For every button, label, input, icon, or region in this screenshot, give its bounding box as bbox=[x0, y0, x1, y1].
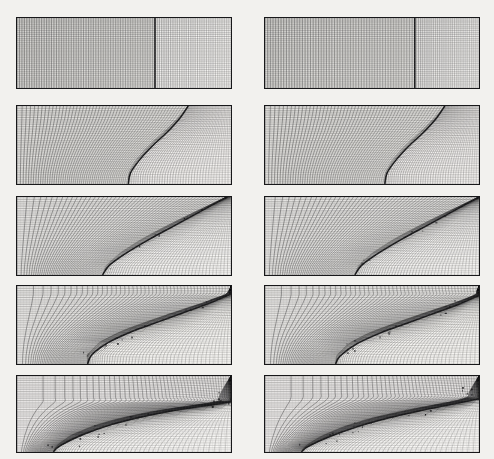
simulation-panel-r5c2 bbox=[264, 375, 480, 453]
mesh-lines-r1c2 bbox=[265, 18, 479, 88]
mesh-lines-r2c2 bbox=[265, 106, 479, 184]
mesh-lines-r5c2 bbox=[265, 376, 479, 452]
mesh-lines-r2c1 bbox=[17, 106, 231, 184]
mesh-lines-r4c2 bbox=[265, 286, 479, 364]
simulation-panel-r5c1 bbox=[16, 375, 232, 453]
simulation-panel-r2c2 bbox=[264, 105, 480, 185]
simulation-panel-r4c1 bbox=[16, 285, 232, 365]
mesh-lines-r3c2 bbox=[265, 197, 479, 275]
simulation-panel-r4c2 bbox=[264, 285, 480, 365]
mesh-lines-r5c1 bbox=[17, 376, 231, 452]
simulation-panel-r1c1 bbox=[16, 17, 232, 89]
mesh-lines-r4c1 bbox=[17, 286, 231, 364]
mesh-lines-r3c1 bbox=[17, 197, 231, 275]
simulation-panel-r1c2 bbox=[264, 17, 480, 89]
simulation-panel-r3c2 bbox=[264, 196, 480, 276]
mesh-lines-r1c1 bbox=[17, 18, 231, 88]
simulation-panel-r2c1 bbox=[16, 105, 232, 185]
simulation-panel-r3c1 bbox=[16, 196, 232, 276]
figure-panel-grid bbox=[0, 0, 494, 459]
